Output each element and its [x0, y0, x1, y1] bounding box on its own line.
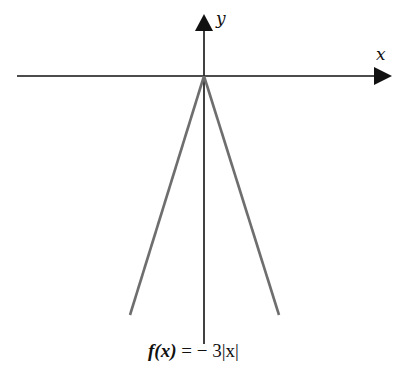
caption-function-body: = − 3|x| — [176, 340, 238, 361]
caption-function-name: f(x) — [148, 340, 176, 361]
x-axis-label: x — [376, 44, 386, 64]
curve-left-branch — [130, 76, 204, 315]
y-axis-arrow-icon — [195, 14, 213, 31]
x-axis-arrow-icon — [374, 67, 392, 85]
y-axis-label: y — [216, 8, 226, 28]
curve-right-branch — [204, 76, 279, 315]
function-caption: f(x) = − 3|x| — [148, 340, 239, 362]
graph-canvas — [0, 0, 395, 381]
